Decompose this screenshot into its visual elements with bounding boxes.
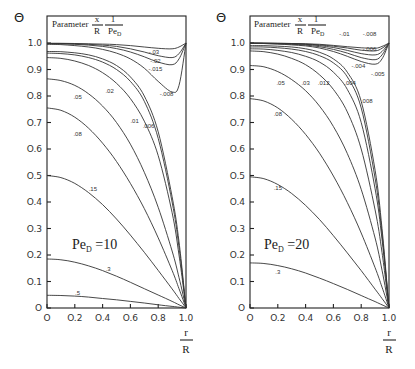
- curve-label: .08: [73, 131, 82, 137]
- y-tick-label: O.2: [27, 250, 42, 260]
- curve-label: -.015: [149, 66, 163, 72]
- parameter-label: Parameter: [52, 19, 88, 29]
- y-tick-label: O.6: [27, 144, 43, 154]
- curve-label: -.004: [352, 63, 366, 69]
- curve-label: .05: [73, 94, 82, 100]
- curve-.3: [250, 263, 389, 308]
- x-tick-label: O.8: [354, 313, 370, 323]
- x-tick-label: O: [246, 313, 253, 323]
- x-tick-label: O.8: [151, 313, 167, 323]
- x-tick-label: O.4: [298, 313, 314, 323]
- y-tick-label: O.8: [230, 91, 246, 101]
- y-tick-label: O.1: [230, 277, 245, 287]
- y-tick-label: O.6: [230, 144, 246, 154]
- x-tick-label: O.2: [67, 313, 82, 323]
- curve-label: .01: [130, 118, 139, 124]
- y-tick-label: O.1: [27, 277, 42, 287]
- y-axis-label-theta: Θ: [216, 10, 226, 25]
- parameter-pe: PeD: [311, 26, 325, 37]
- parameter-R: R: [297, 26, 303, 36]
- y-tick-label: O.5: [27, 171, 42, 181]
- curve-label: .3: [275, 269, 281, 275]
- curve-label: .05: [276, 80, 285, 86]
- figure-canvas: Θ Parameter x R 1 PeD OO.1O.2O.3O.4O.5O.…: [0, 0, 415, 369]
- curve-label: -.01: [339, 31, 350, 37]
- curve-.5: [47, 295, 186, 308]
- x-tick-label: O.6: [123, 313, 139, 323]
- parameter-label: Parameter: [254, 19, 290, 29]
- curve-label: -.008: [160, 91, 174, 97]
- y-tick-label: O.4: [27, 197, 43, 207]
- curve-.03: [250, 51, 389, 308]
- x-axis-label-R: R: [385, 343, 393, 355]
- curve--.008: [47, 43, 186, 92]
- y-tick-label: O: [238, 303, 245, 313]
- parameter-R: R: [94, 26, 100, 36]
- y-tick-label: O.8: [27, 91, 43, 101]
- curve-label: -.006: [363, 46, 377, 52]
- chart-pe-20: Θ Parameter x R 1 PeD OO.1O.2O.3O.4O.5O.…: [216, 10, 396, 355]
- curve-label: .006: [143, 123, 155, 129]
- curve-.08: [47, 108, 186, 308]
- x-tick-label: 1.0: [179, 313, 194, 323]
- x-tick-label: O: [43, 313, 50, 323]
- y-tick-label: O.9: [27, 65, 43, 75]
- parameter-pe: PeD: [108, 26, 122, 37]
- annotation-pe-10: PeD =10: [72, 237, 117, 254]
- x-tick-label: O.6: [326, 313, 342, 323]
- curve-.3: [47, 259, 186, 308]
- curve-label: .5: [75, 290, 81, 296]
- curve-label: .15: [274, 185, 283, 191]
- y-tick-label: 1.0: [231, 38, 246, 48]
- parameter-legend: Parameter x R 1 PeD: [254, 14, 326, 37]
- x-axis-label-R: R: [182, 343, 190, 355]
- x-tick-label: 1.0: [382, 313, 397, 323]
- curves-left: -.03-.02-.015-.008.006.01.02.05.08.15.3.…: [47, 43, 186, 308]
- parameter-legend: Parameter x R 1 PeD: [52, 14, 123, 37]
- y-axis-label-theta: Θ: [14, 10, 24, 25]
- curve-label: .3: [106, 266, 112, 272]
- y-tick-label: O.9: [230, 65, 246, 75]
- y-tick-label: O.3: [27, 224, 42, 234]
- curve-label: -.008: [363, 31, 377, 37]
- y-tick-label: O.7: [27, 118, 42, 128]
- y-tick-label: 1.0: [28, 38, 43, 48]
- x-tick-label: O.2: [270, 313, 285, 323]
- y-tick-label: O.4: [230, 197, 246, 207]
- y-tick-label: O: [35, 303, 42, 313]
- y-tick-label: O.7: [230, 118, 245, 128]
- x-axis-label-r: r: [184, 326, 188, 338]
- x-tick-label: O.4: [95, 313, 111, 323]
- curve-label: .08: [274, 111, 283, 117]
- axis-ticks-left: OO.1O.2O.3O.4O.5O.6O.7O.8O.91.0OO.2O.4O.…: [27, 38, 194, 323]
- axis-ticks-right: OO.1O.2O.3O.4O.5O.6O.7O.8O.91.0OO.2O.4O.…: [230, 38, 397, 323]
- annotation-pe-20: PeD =20: [264, 237, 309, 254]
- curve-label: .03: [301, 80, 310, 86]
- y-tick-label: O.2: [230, 250, 245, 260]
- x-axis-label-r: r: [387, 326, 391, 338]
- curve-label: -.005: [371, 71, 385, 77]
- y-tick-label: O.3: [230, 224, 245, 234]
- chart-pe-10: Θ Parameter x R 1 PeD OO.1O.2O.3O.4O.5O.…: [14, 10, 193, 355]
- curve-label: .15: [89, 186, 98, 192]
- curve-label: .008: [361, 98, 373, 104]
- curve-label: .02: [105, 88, 114, 94]
- y-tick-label: O.5: [230, 171, 245, 181]
- curves-right: -.01-.008-.006-.005-.004.004.008.012.03.…: [250, 31, 389, 308]
